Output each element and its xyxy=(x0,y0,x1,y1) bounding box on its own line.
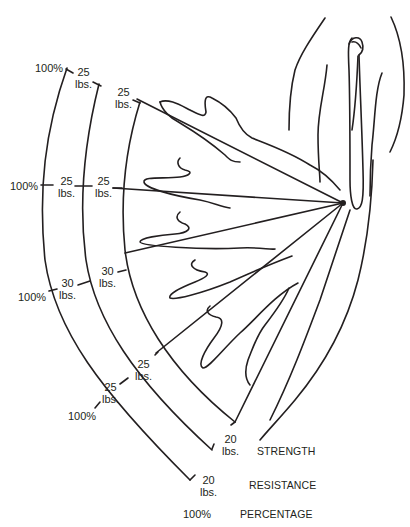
percentage-label: 100% xyxy=(35,62,63,74)
resistance-value: 25 xyxy=(60,175,72,187)
resistance-value: 30 xyxy=(61,277,73,289)
tick-pct-1 xyxy=(66,69,73,73)
strength-unit: lbs. xyxy=(222,445,239,457)
resistance-value: 20 xyxy=(202,474,214,486)
forearm-silhouette-1-inner xyxy=(160,102,240,162)
tick-res-3 xyxy=(78,281,90,285)
resistance-label: 25lbs. xyxy=(75,66,92,90)
resistance-value: 25 xyxy=(77,66,89,78)
legend-percentage: PERCENTAGE xyxy=(240,508,313,520)
radial-line-4 xyxy=(156,203,343,353)
resistance-label: 20lbs. xyxy=(200,474,217,498)
resistance-unit: lbs. xyxy=(59,289,76,301)
strength-unit: lbs. xyxy=(95,187,112,199)
radial-line-5 xyxy=(235,203,343,422)
percentage-arc xyxy=(42,68,190,480)
resistance-unit: lbs. xyxy=(200,486,217,498)
percentage-label: 100% xyxy=(10,180,38,192)
tick-pct-3 xyxy=(49,289,57,291)
legend-resistance: RESISTANCE xyxy=(249,479,316,491)
tick-res-4 xyxy=(120,378,128,384)
strength-value: 25 xyxy=(97,175,109,187)
strength-label: 30lbs. xyxy=(99,265,116,289)
strength-unit: lbs. xyxy=(135,370,152,382)
strength-unit: lbs. xyxy=(99,277,116,289)
tick-res-5 xyxy=(212,444,214,449)
resistance-value: 25 xyxy=(104,381,116,393)
strength-label: 25lbs. xyxy=(135,358,152,382)
bone-shaft xyxy=(352,56,358,130)
arm-diagram xyxy=(0,0,410,527)
upper-arm-outline-right xyxy=(390,17,404,152)
resistance-label: 25lbs. xyxy=(102,381,119,405)
strength-label: 20lbs. xyxy=(222,433,239,457)
forearm-silhouette-2 xyxy=(144,158,230,208)
strength-unit: lbs. xyxy=(115,98,132,110)
tick-pct-5 xyxy=(190,475,195,480)
percentage-label: 100% xyxy=(183,508,211,520)
bone-humerus-left xyxy=(318,65,327,182)
resistance-label: 30lbs. xyxy=(59,277,76,301)
resistance-label: 25lbs. xyxy=(58,175,75,199)
legend-strength: STRENGTH xyxy=(257,445,316,457)
radial-line-1 xyxy=(137,99,343,203)
radial-line-2 xyxy=(113,188,343,203)
forearm-silhouette-6 xyxy=(246,288,289,385)
elbow-pivot xyxy=(340,200,346,206)
strength-value: 30 xyxy=(101,265,113,277)
percentage-label: 100% xyxy=(18,291,46,303)
tick-str-3 xyxy=(118,270,126,272)
strength-label: 25lbs. xyxy=(95,175,112,199)
forearm-inner xyxy=(270,210,350,420)
tick-pct-4 xyxy=(95,402,100,408)
radial-line-3 xyxy=(125,203,343,253)
strength-label: 25lbs. xyxy=(115,86,132,110)
strength-value: 20 xyxy=(224,433,236,445)
resistance-unit: lbs. xyxy=(102,393,119,405)
resistance-unit: lbs. xyxy=(58,187,75,199)
strength-value: 25 xyxy=(117,86,129,98)
bone-humerus xyxy=(348,38,363,209)
percentage-label: 100% xyxy=(68,410,96,422)
tick-str-5 xyxy=(231,422,235,425)
resistance-unit: lbs. xyxy=(75,78,92,90)
forearm-silhouette-3 xyxy=(140,212,275,249)
bone-head-inner xyxy=(352,42,361,48)
strength-value: 25 xyxy=(137,358,149,370)
